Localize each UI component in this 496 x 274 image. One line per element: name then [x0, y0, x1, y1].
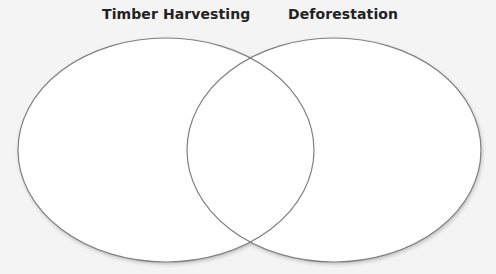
venn-diagram [0, 0, 496, 274]
